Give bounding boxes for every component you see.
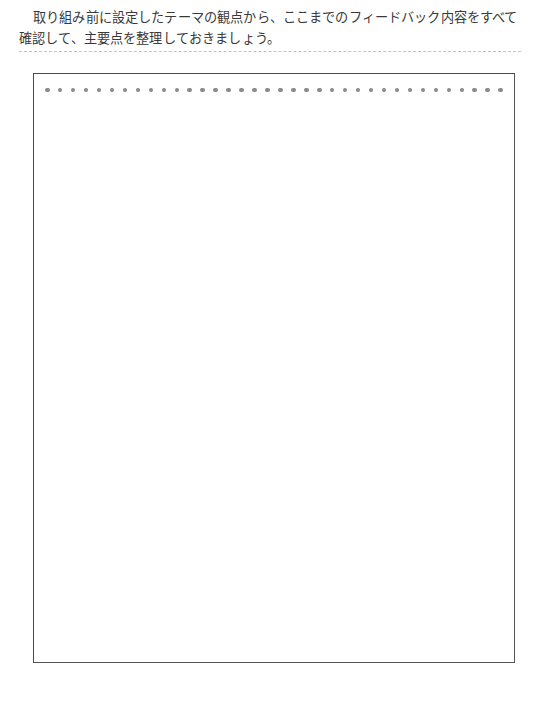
instruction-line-1: 取り組み前に設定したテーマの観点から、ここまでのフィードバック内容をすべて bbox=[19, 7, 521, 28]
dot-marker bbox=[291, 88, 296, 93]
dot-marker bbox=[45, 88, 50, 93]
instruction-line-2: 確認して、主要点を整理しておきましょう。 bbox=[19, 28, 521, 49]
dot-marker bbox=[447, 88, 452, 93]
dot-row bbox=[45, 86, 503, 94]
dot-marker bbox=[84, 88, 89, 93]
dot-marker bbox=[472, 88, 477, 93]
dot-marker bbox=[200, 88, 205, 93]
dot-marker bbox=[123, 88, 128, 93]
dot-marker bbox=[187, 88, 192, 93]
dot-marker bbox=[485, 88, 490, 93]
dot-marker bbox=[434, 88, 439, 93]
instruction-text: 取り組み前に設定したテーマの観点から、ここまでのフィードバック内容をすべて 確認… bbox=[19, 7, 521, 49]
dot-marker bbox=[58, 88, 63, 93]
dot-marker bbox=[252, 88, 257, 93]
dot-marker bbox=[408, 88, 413, 93]
dot-marker bbox=[226, 88, 231, 93]
dot-marker bbox=[304, 88, 309, 93]
dashed-divider bbox=[19, 51, 521, 52]
dot-marker bbox=[356, 88, 361, 93]
dot-marker bbox=[382, 88, 387, 93]
worksheet-page: 取り組み前に設定したテーマの観点から、ここまでのフィードバック内容をすべて 確認… bbox=[0, 0, 540, 703]
dot-marker bbox=[317, 88, 322, 93]
dot-marker bbox=[175, 88, 180, 93]
dot-marker bbox=[343, 88, 348, 93]
dot-marker bbox=[278, 88, 283, 93]
dot-marker bbox=[213, 88, 218, 93]
dot-marker bbox=[369, 88, 374, 93]
dot-marker bbox=[330, 88, 335, 93]
dot-marker bbox=[71, 88, 76, 93]
dot-marker bbox=[498, 88, 503, 93]
dot-marker bbox=[460, 88, 465, 93]
dot-marker bbox=[239, 88, 244, 93]
dot-marker bbox=[110, 88, 115, 93]
answer-box[interactable] bbox=[33, 73, 515, 663]
dot-marker bbox=[136, 88, 141, 93]
dot-marker bbox=[395, 88, 400, 93]
dot-marker bbox=[421, 88, 426, 93]
dot-marker bbox=[97, 88, 102, 93]
writing-area[interactable] bbox=[34, 104, 514, 662]
dot-marker bbox=[149, 88, 154, 93]
dot-marker bbox=[265, 88, 270, 93]
dot-marker bbox=[162, 88, 167, 93]
